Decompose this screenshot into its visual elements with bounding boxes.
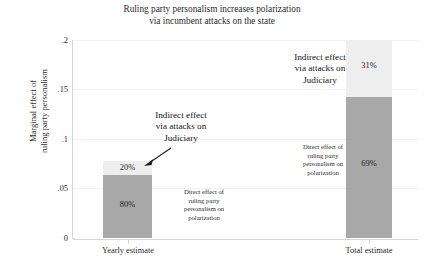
y-tick-label-0_1: .1 [40,135,68,144]
y-tick-label-0_15: .15 [40,85,68,94]
annotation-indirect-left: Indirect effect via attacks on Judiciary [128,110,234,144]
bar-yearly-direct-label: 80% [103,200,152,209]
y-axis-tick-labels: .2 .15 .1 .05 0 [38,0,68,264]
x-tick-mark-total [369,240,370,244]
arrow-indirect-left-icon [140,146,174,168]
y-tick-label-0_05: .05 [40,184,68,193]
bar-yearly-direct-segment[interactable]: 80% [103,175,152,238]
annotation-direct-right: Direct effect of ruling party personalis… [282,143,364,177]
x-axis-line [73,239,418,240]
x-tick-mark-yearly [128,240,129,244]
y-tick-label-0_2: .2 [40,36,68,45]
x-tick-label-total-estimate: Total estimate [309,246,424,255]
x-tick-label-yearly-estimate: Yearly estimate [68,246,188,255]
annotation-indirect-right: Indirect effect via attacks on Judiciary [276,52,364,86]
y-tick-label-0: 0 [40,234,68,243]
annotation-direct-left: Direct effect of ruling party personalis… [154,188,254,222]
